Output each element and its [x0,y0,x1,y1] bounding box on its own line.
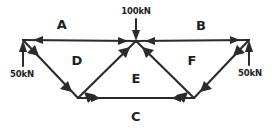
member-label-E: E [131,72,140,85]
member-label-B: B [196,19,206,32]
member-C-arrow-right [171,94,181,102]
apex-load-arrowhead [132,30,140,41]
member-D-arrow-bottom [60,81,72,92]
apex-load-arrow [132,19,140,41]
force-label-right-support: 50kN [238,69,262,78]
member-label-D: D [71,54,82,67]
member-E-right-group [136,41,194,103]
truss-diagram: A B C D E F 100kN 50kN 50kN [0,0,272,132]
member-E-left-group [78,41,136,103]
member-B-arrow-right [230,36,240,44]
member-A-group [23,36,136,45]
force-label-apex-load: 100kN [121,7,151,16]
member-C-arrow-left [91,94,101,102]
member-label-C: C [131,110,141,123]
member-label-F: F [187,54,196,67]
member-B-group [136,36,249,45]
member-label-A: A [57,18,67,31]
member-A-arrow-right [118,37,128,45]
member-F-arrow-bottom [200,81,212,92]
member-A-arrow-left [33,36,43,44]
force-label-left-support: 50kN [10,70,34,79]
member-B-arrow-left [145,37,155,45]
